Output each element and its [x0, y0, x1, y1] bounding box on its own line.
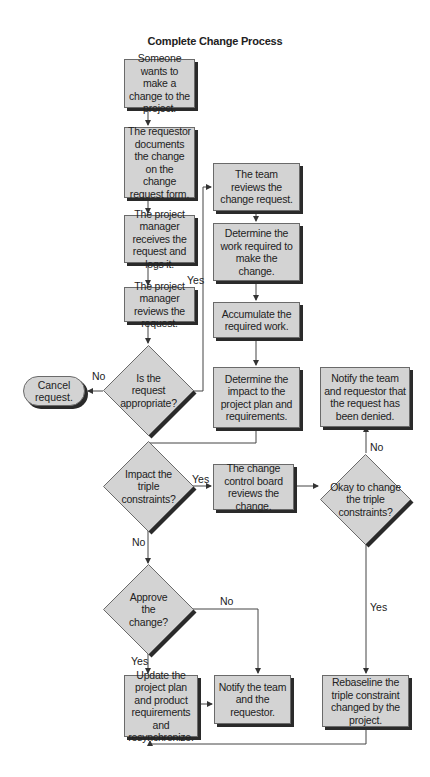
- label-approve-no: No: [220, 595, 233, 607]
- node-cancel: Cancel request.: [23, 376, 85, 406]
- decision-impact-label: Impact the triple constraints?: [103, 441, 194, 532]
- node-team-review: The team reviews the change request.: [213, 163, 300, 211]
- label-okay-yes: Yes: [370, 601, 387, 613]
- node-determine-impact: Determine the impact to the project plan…: [213, 367, 300, 428]
- node-accumulate: Accumulate the required work.: [213, 302, 300, 338]
- label-okay-no: No: [370, 441, 383, 453]
- node-determine-work: Determine the work required to make the …: [213, 223, 300, 281]
- decision-appropriate: Is the request appropriate?: [103, 345, 194, 436]
- node-pm-review: The project manager reviews the request.: [124, 287, 195, 322]
- node-notify-denied: Notify the team and requestor that the r…: [320, 367, 410, 427]
- node-update-plan: Update the project plan and product requ…: [124, 675, 198, 737]
- node-document: The requestor documents the change on th…: [124, 127, 195, 198]
- label-appropriate-no: No: [92, 370, 105, 382]
- decision-okay-label: Okay to change the triple constraints?: [320, 454, 411, 545]
- decision-appropriate-label: Is the request appropriate?: [103, 345, 194, 436]
- node-start: Someone wants to make a change to the pr…: [124, 59, 195, 108]
- decision-approve-label: Approve the change?: [103, 564, 194, 655]
- node-notify-team: Notify the team and the requestor.: [214, 675, 291, 724]
- label-impact-no: No: [132, 536, 145, 548]
- label-impact-yes: Yes: [192, 473, 209, 485]
- decision-okay: Okay to change the triple constraints?: [320, 454, 411, 545]
- label-approve-yes: Yes: [131, 655, 148, 667]
- decision-approve: Approve the change?: [103, 564, 194, 655]
- label-appropriate-yes: Yes: [187, 274, 204, 286]
- node-rebaseline: Rebaseline the triple constraint changed…: [322, 675, 409, 727]
- node-ccb: The change control board reviews the cha…: [213, 464, 294, 510]
- node-logs: The project manager receives the request…: [124, 215, 195, 263]
- decision-impact: Impact the triple constraints?: [103, 441, 194, 532]
